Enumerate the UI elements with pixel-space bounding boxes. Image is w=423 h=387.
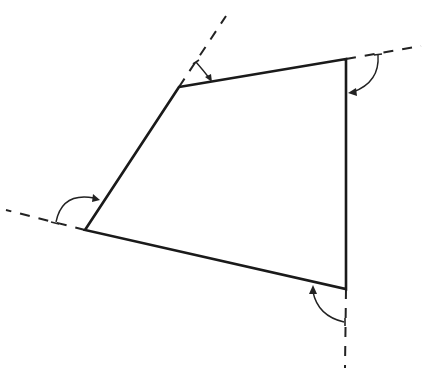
angle-tick <box>374 54 382 55</box>
arrowhead-icon <box>309 285 317 294</box>
angle-arc <box>353 55 378 92</box>
exterior-angle-top-right <box>348 54 382 96</box>
angle-arc <box>56 197 94 222</box>
arrowhead-icon <box>92 194 100 202</box>
quadrilateral <box>85 59 346 289</box>
extension-right <box>346 46 421 59</box>
angle-arc <box>313 292 344 322</box>
exterior-angle-bottom-right <box>309 285 345 326</box>
quadrilateral-exterior-angles-diagram <box>0 0 423 387</box>
extension-bottom <box>345 289 346 368</box>
extension-left <box>6 210 85 230</box>
extension-top <box>179 16 226 87</box>
diagram-canvas <box>0 0 423 387</box>
arrowhead-icon <box>348 88 357 96</box>
exterior-angle-top-left <box>193 60 212 82</box>
